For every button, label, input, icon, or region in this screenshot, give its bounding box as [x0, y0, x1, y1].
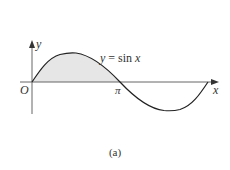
origin-label: O [20, 84, 29, 96]
figure-caption: (a) [0, 146, 230, 158]
curve-label-x: x [135, 51, 140, 65]
y-axis-label: y [36, 38, 41, 50]
pi-tick-label: π [115, 85, 121, 96]
y-axis-arrow-icon [29, 40, 35, 48]
curve-label: y = sin x [100, 52, 140, 64]
curve-label-eq: = sin [105, 51, 135, 65]
sine-graph-figure: y y = sin x O π x (a) [0, 0, 230, 170]
x-axis-label: x [213, 84, 218, 96]
